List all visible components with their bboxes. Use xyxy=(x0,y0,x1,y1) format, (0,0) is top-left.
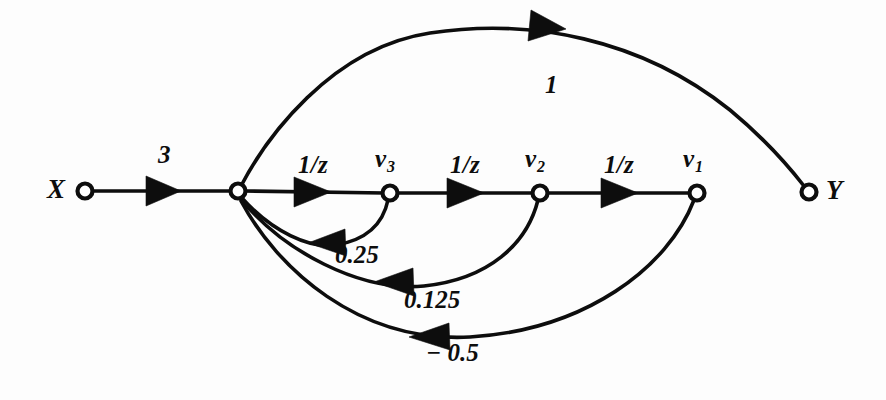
node-label-v3-subscript: 3 xyxy=(386,158,395,175)
edge-line-v1-to-junction xyxy=(241,200,694,337)
edge-gain-v3-to-v2: 1/z xyxy=(450,152,480,177)
arrowhead-v2-to-v1 xyxy=(601,178,638,208)
node-label-v2-base: v xyxy=(525,145,536,172)
node-v2[interactable] xyxy=(533,186,548,201)
edge-gain-x-to-junction: 3 xyxy=(158,142,171,167)
edge-gain-v3-to-junction: 0.25 xyxy=(335,242,379,267)
edge-v2-to-v1 xyxy=(547,178,691,208)
edge-v3-to-v2 xyxy=(397,178,534,208)
edge-gain-v2-to-junction: 0.125 xyxy=(404,287,460,312)
arrowhead-junction-to-v3 xyxy=(294,177,331,207)
edge-gain-v2-to-v1: 1/z xyxy=(604,152,634,177)
node-junction[interactable] xyxy=(231,184,246,199)
node-label-v3-base: v xyxy=(375,145,386,172)
arrowhead-x-to-junction xyxy=(146,176,181,206)
node-y[interactable] xyxy=(802,185,817,200)
edge-v2-to-junction xyxy=(241,199,538,296)
node-label-v3: v3 xyxy=(375,146,395,175)
edge-gain-junction-to-v3: 1/z xyxy=(298,152,328,177)
edge-junction-to-v3 xyxy=(244,177,384,207)
node-label-y: Y xyxy=(826,177,843,204)
edge-gain-junction-to-y: 1 xyxy=(545,72,558,97)
edge-line-v2-to-junction xyxy=(241,199,538,287)
edge-gain-v1-to-junction: − 0.5 xyxy=(426,340,479,365)
node-label-v1: v1 xyxy=(683,146,703,175)
node-label-v1-subscript: 1 xyxy=(694,158,703,175)
node-v3[interactable] xyxy=(383,186,398,201)
node-label-v2: v2 xyxy=(525,146,545,175)
arrowhead-v3-to-v2 xyxy=(447,178,484,208)
node-v1[interactable] xyxy=(690,186,705,201)
node-label-x: X xyxy=(47,176,65,203)
signal-flow-graph-figure: X Y v3 v2 v1 3 1/z 1/z 1/z 1 0.25 0.125 … xyxy=(0,0,886,400)
node-x[interactable] xyxy=(78,184,93,199)
node-label-v2-subscript: 2 xyxy=(536,158,545,175)
edge-x-to-junction xyxy=(92,176,236,206)
arrowhead-junction-to-y xyxy=(528,10,566,41)
node-label-v1-base: v xyxy=(683,145,694,172)
